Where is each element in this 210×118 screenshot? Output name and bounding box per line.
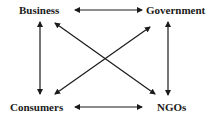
node-consumers: Consumers: [10, 101, 63, 113]
node-ngos: NGOs: [157, 101, 186, 113]
node-business: Business: [19, 4, 59, 16]
arrow-government-consumers: [55, 27, 150, 94]
node-government: Government: [146, 4, 205, 16]
